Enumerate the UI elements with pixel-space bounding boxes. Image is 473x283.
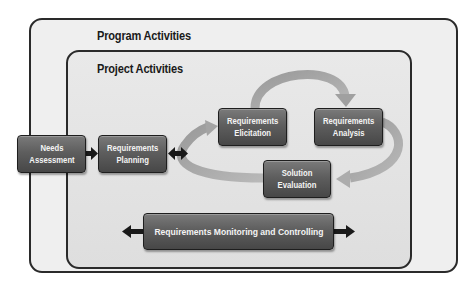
requirements-analysis-box: RequirementsAnalysis [314, 108, 383, 146]
needs-assessment-box: NeedsAssessment [17, 135, 86, 173]
requirements-monitoring-controlling-box: Requirements Monitoring and Controlling [143, 213, 334, 250]
requirements-elicitation-label-line2: Elicitation [227, 127, 278, 139]
solution-evaluation-label-line2: Evaluation [278, 179, 317, 191]
requirements-planning-box: RequirementsPlanning [98, 135, 167, 173]
requirements-analysis-label-line1: Requirements [323, 115, 374, 127]
needs-assessment-label-line2: Assessment [29, 154, 74, 166]
requirements-planning-label-line1: Requirements [107, 142, 158, 154]
needs-assessment-label-line1: Needs [29, 142, 74, 154]
solution-evaluation-box: SolutionEvaluation [263, 160, 331, 198]
arrow-needs-to-planning [86, 147, 98, 160]
requirements-monitoring-controlling-label: Requirements Monitoring and Controlling [154, 226, 323, 238]
requirements-elicitation-label-line1: Requirements [227, 115, 278, 127]
solution-evaluation-label-line1: Solution [278, 167, 317, 179]
requirements-elicitation-box: RequirementsElicitation [218, 108, 287, 146]
cycle-arrow-elicitation-to-analysis [255, 74, 356, 108]
requirements-analysis-label-line2: Analysis [323, 127, 374, 139]
requirements-planning-label-line2: Planning [107, 154, 158, 166]
